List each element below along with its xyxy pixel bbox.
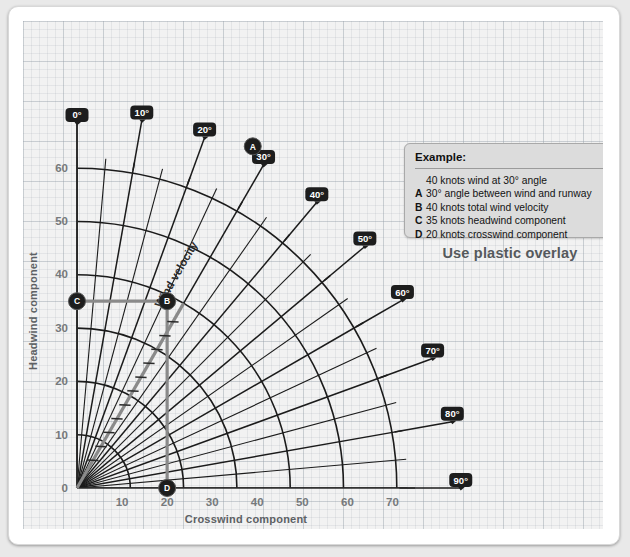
- point-badge-label: D: [164, 483, 170, 493]
- point-badge-D: D: [159, 480, 176, 497]
- angle-badge-70: 70°: [421, 344, 444, 362]
- point-badge-label: B: [164, 296, 170, 306]
- point-badge-C: C: [69, 293, 86, 310]
- polar-grid: [77, 158, 407, 488]
- y-tick-50: 50: [55, 215, 68, 227]
- x-tick-70: 70: [386, 496, 399, 508]
- x-axis-title: Crosswind component: [185, 513, 307, 525]
- x-tick-20: 20: [161, 496, 174, 508]
- legend-line-text: 40 knots wind at 30° angle: [426, 175, 547, 186]
- angle-badge-80: 80°: [441, 407, 464, 425]
- legend-line: D20 knots crosswind component: [415, 228, 603, 241]
- crosswind-plot: 0102030405060 10203040506070 Headwind co…: [23, 21, 603, 529]
- angle-badge-60: 60°: [391, 285, 414, 303]
- x-tick-30: 30: [206, 496, 219, 508]
- angle-badge-50: 50°: [353, 231, 376, 249]
- legend-title: Example:: [415, 151, 603, 163]
- legend-line: C35 knots headwind component: [415, 214, 603, 227]
- y-tick-20: 20: [55, 375, 68, 387]
- y-tick-10: 10: [55, 429, 68, 441]
- legend-line-text: 20 knots crosswind component: [426, 229, 567, 240]
- legend-line-key: C: [415, 214, 426, 227]
- legend-line-text: 35 knots headwind component: [426, 215, 566, 226]
- legend-line: A30° angle between wind and runway: [415, 187, 603, 200]
- angle-badge-label: 20°: [197, 124, 212, 135]
- y-tick-30: 30: [55, 322, 68, 334]
- point-badges: ABCD: [69, 138, 262, 497]
- angle-badge-label: 70°: [425, 345, 440, 356]
- overlay-note: Use plastic overlay: [404, 245, 603, 261]
- angle-badge-10: 10°: [130, 106, 153, 124]
- y-tick-60: 60: [55, 162, 68, 174]
- legend-divider: [415, 168, 603, 169]
- legend-line-key: D: [415, 228, 426, 241]
- y-tick-40: 40: [55, 268, 68, 280]
- legend-line-text: 30° angle between wind and runway: [426, 188, 592, 199]
- legend-line-text: 40 knots total wind velocity: [426, 202, 548, 213]
- angle-badge-40: 40°: [305, 187, 328, 205]
- legend-line: 40 knots wind at 30° angle: [415, 174, 603, 187]
- chart-card: 0102030405060 10203040506070 Headwind co…: [8, 6, 620, 545]
- x-tick-labels: 10203040506070: [116, 496, 399, 508]
- chart-panel: 0102030405060 10203040506070 Headwind co…: [23, 21, 603, 529]
- x-tick-40: 40: [251, 496, 264, 508]
- point-badge-A: A: [244, 138, 261, 155]
- x-tick-50: 50: [296, 496, 309, 508]
- x-tick-60: 60: [341, 496, 354, 508]
- x-tick-10: 10: [116, 496, 129, 508]
- y-tick-labels: 0102030405060: [55, 162, 68, 494]
- angle-badge-label: 0°: [72, 109, 81, 120]
- legend-line-key: A: [415, 187, 426, 200]
- angle-badge-label: 80°: [445, 408, 460, 419]
- angle-badge-label: 90°: [454, 475, 469, 486]
- angle-badge-label: 10°: [135, 107, 150, 118]
- point-badge-B: B: [159, 293, 176, 310]
- angle-badge-label: 60°: [395, 287, 410, 298]
- example-legend-box: Example: 40 knots wind at 30° angleA30° …: [404, 143, 603, 238]
- legend-line-key: B: [415, 201, 426, 214]
- legend-lines: 40 knots wind at 30° angleA30° angle bet…: [415, 174, 603, 241]
- angle-badge-20: 20°: [193, 122, 216, 140]
- angle-badge-label: 50°: [358, 233, 373, 244]
- point-badge-label: C: [74, 296, 80, 306]
- angle-badge-label: 40°: [310, 189, 325, 200]
- y-axis-title: Headwind component: [27, 252, 39, 370]
- angle-badge-0: 0°: [66, 108, 89, 126]
- point-badge-label: A: [250, 142, 256, 152]
- y-tick-0: 0: [62, 482, 68, 494]
- legend-line: B40 knots total wind velocity: [415, 201, 603, 214]
